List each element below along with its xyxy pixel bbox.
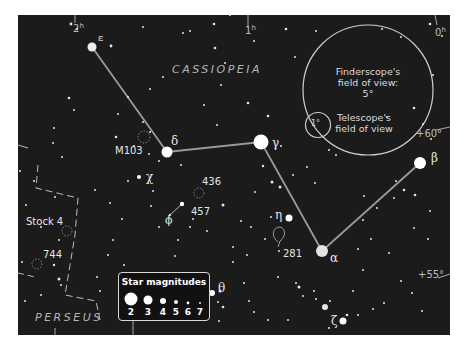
ra-tick-0h — [435, 15, 437, 25]
telescope-line2: field of view — [334, 123, 394, 134]
m103-cluster-icon — [138, 131, 150, 143]
label-alpha: α — [330, 252, 338, 264]
star-magnitude-legend: Star magnitudes 2 3 4 5 6 7 — [118, 272, 210, 321]
legend-star-mag5 — [174, 300, 178, 304]
ra-label-2h: 2h — [73, 23, 84, 34]
constellation-boundary-2 — [18, 273, 35, 277]
star-chart: 2h 1h 0h +60° +55° CASSIOPEIA PERSEUS ε … — [18, 15, 450, 335]
ngc281-nebula-icon — [273, 227, 284, 247]
constellation-name-perseus: PERSEUS — [35, 312, 103, 323]
finderscope-line2: field of view: — [318, 77, 418, 88]
star-zeta — [340, 318, 347, 325]
finderscope-fov-label: Finderscope's field of view: 5° — [318, 66, 418, 99]
legend-star-mag2 — [125, 293, 138, 306]
legend-mag-3: 3 — [143, 307, 153, 317]
ngc436-cluster-icon — [194, 188, 204, 198]
label-beta: β — [431, 152, 438, 164]
label-phi: ϕ — [165, 215, 173, 226]
label-stock4: Stock 4 — [26, 217, 63, 227]
legend-star-mag3 — [144, 296, 153, 305]
legend-star-mag4 — [160, 298, 166, 304]
legend-mag-5: 5 — [171, 307, 181, 317]
label-ngc281: 281 — [283, 249, 302, 259]
legend-mag-7: 7 — [195, 307, 205, 317]
star-gamma — [254, 135, 269, 150]
label-m103: M103 — [115, 146, 143, 156]
label-eta: η — [275, 209, 282, 221]
star-457 — [180, 202, 184, 206]
label-chi: χ — [146, 171, 153, 183]
label-epsilon: ε — [98, 33, 103, 43]
label-ngc457: 457 — [191, 207, 210, 217]
star-eta — [286, 215, 293, 222]
telescope-fov-degree: 1° — [311, 120, 320, 128]
star-chi — [137, 175, 141, 179]
ra-label-1h: 1h — [245, 25, 256, 36]
label-ngc436: 436 — [202, 177, 221, 187]
star-beta — [414, 157, 426, 169]
star-delta — [162, 147, 173, 158]
constellation-boundary — [36, 165, 100, 320]
label-zeta: ζ — [331, 315, 338, 327]
ngc744-cluster-icon — [32, 259, 42, 269]
legend-star-mag6 — [187, 302, 190, 305]
label-gamma: γ — [272, 137, 279, 149]
stock4-cluster-icon — [62, 226, 72, 236]
legend-mag-6: 6 — [183, 307, 193, 317]
label-theta: θ — [218, 282, 225, 294]
legend-mag-2: 2 — [126, 307, 136, 317]
constellation-boundary-3 — [18, 145, 28, 148]
ra-label-0h: 0h — [435, 27, 446, 38]
dec-label-55: +55° — [418, 270, 444, 280]
telescope-fov-label: Telescope's field of view — [334, 112, 394, 134]
finderscope-line1: Finderscope's — [318, 66, 418, 77]
telescope-line1: Telescope's — [334, 112, 394, 123]
legend-mag-4: 4 — [158, 307, 168, 317]
dec-label-60: +60° — [416, 129, 442, 139]
star-alpha — [316, 245, 328, 257]
legend-star-mag7 — [199, 302, 201, 304]
constellation-name-cassiopeia: CASSIOPEIA — [172, 64, 262, 75]
label-delta: δ — [171, 135, 178, 147]
star-epsilon — [88, 43, 97, 52]
finderscope-line3: 5° — [318, 88, 418, 99]
label-ngc744: 744 — [43, 250, 62, 260]
